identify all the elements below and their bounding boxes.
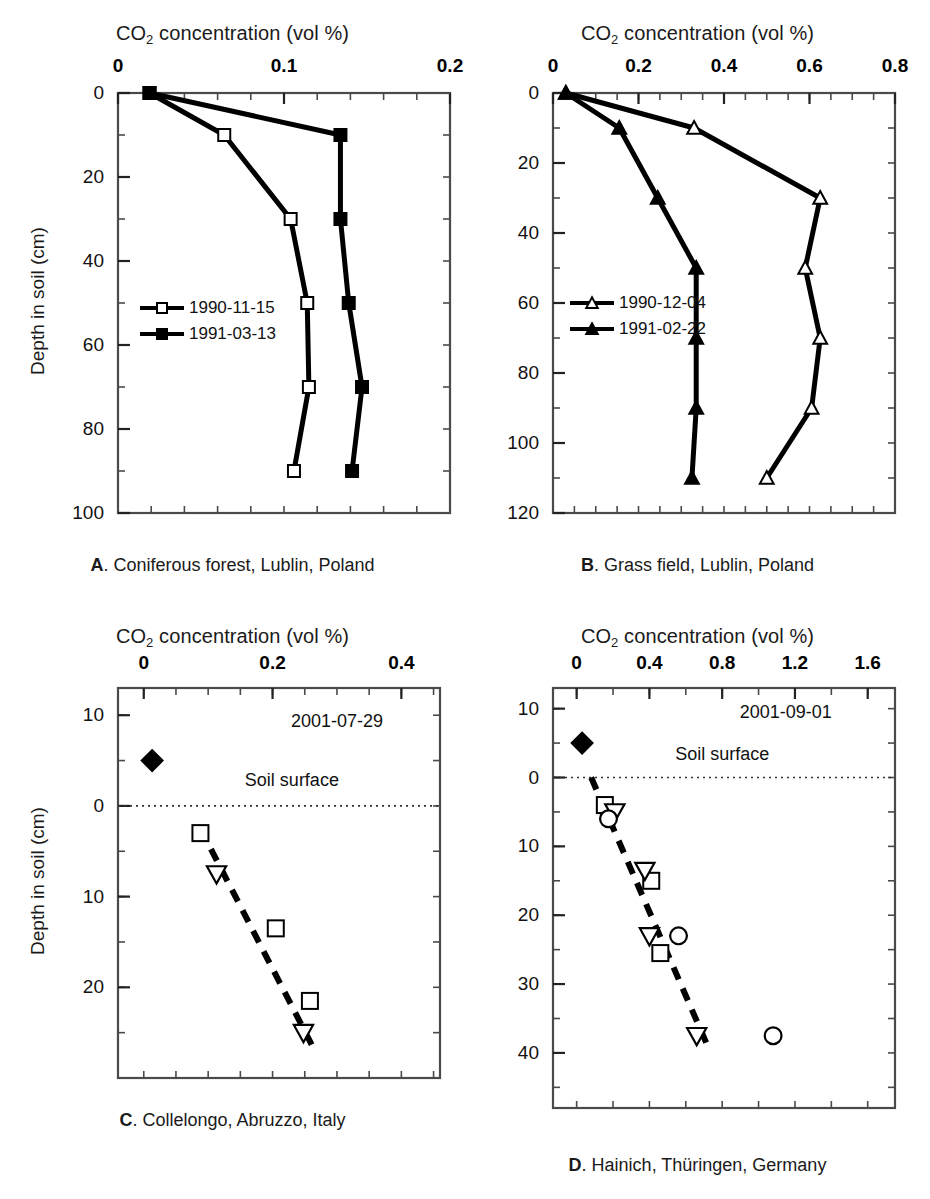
legend-symbol-open-square <box>140 301 184 315</box>
x-tick-label: 0.2 <box>437 55 463 77</box>
panel-c-caption: C. Collelongo, Abruzzo, Italy <box>0 1110 465 1131</box>
data-point-open-square <box>288 465 300 477</box>
x-tick-label: 1.2 <box>782 652 808 674</box>
data-point-open-square <box>302 993 318 1009</box>
y-tick-label: 30 <box>465 973 539 995</box>
x-tick-label: 0.8 <box>882 55 908 77</box>
legend-label: 1991-02-22 <box>619 319 706 339</box>
legend-item: 1990-11-15 <box>140 295 276 321</box>
data-point-filled-triangle <box>685 471 699 484</box>
y-tick-label: 20 <box>0 166 104 188</box>
panel-a-legend: 1990-11-151991-03-13 <box>140 295 276 347</box>
y-tick-label: 0 <box>0 795 104 817</box>
panel-d: CO2 concentration (vol %) 2001-09-01 Soi… <box>465 600 930 1199</box>
x-tick-label: 0.4 <box>711 55 737 77</box>
data-point-filled-square <box>334 213 346 225</box>
y-tick-label: 10 <box>0 886 104 908</box>
data-point-filled-square <box>157 329 167 339</box>
x-tick-label: 0.2 <box>625 55 651 77</box>
data-point-open-square <box>303 381 315 393</box>
x-tick-label: 0.4 <box>388 652 414 674</box>
legend-symbol-filled-triangle <box>570 322 614 336</box>
x-tick-label: 0.6 <box>796 55 822 77</box>
panel-d-date-annotation: 2001-09-01 <box>740 702 832 723</box>
panel-c-date-annotation: 2001-07-29 <box>291 711 383 732</box>
panel-b-legend: 1990-12-041991-02-22 <box>570 290 706 342</box>
x-tick-label: 0.4 <box>636 652 662 674</box>
y-tick-label: 0 <box>465 82 539 104</box>
y-tick-label: 120 <box>465 502 539 524</box>
y-tick-label: 80 <box>465 362 539 384</box>
x-tick-label: 0.2 <box>259 652 285 674</box>
data-point-open-triangle <box>586 297 598 308</box>
panel-a-ylabel: Depth in soil (cm) <box>27 201 49 401</box>
data-point-filled-triangle <box>586 323 598 334</box>
x-tick-label: 0.8 <box>709 652 735 674</box>
panel-c-plot <box>0 600 465 1160</box>
legend-symbol-open-triangle <box>570 296 614 310</box>
data-point-filled-square <box>343 297 355 309</box>
legend-label: 1990-12-04 <box>619 293 706 313</box>
x-tick-label: 0.1 <box>271 55 297 77</box>
data-point-open-square <box>301 297 313 309</box>
data-point-filled-square <box>334 129 346 141</box>
panel-a-caption: A. Coniferous forest, Lublin, Poland <box>0 555 465 576</box>
y-tick-label: 20 <box>465 904 539 926</box>
panel-c-axis-title: CO2 concentration (vol %) <box>0 625 465 648</box>
y-tick-label: 100 <box>0 502 104 524</box>
y-tick-label: 40 <box>0 250 104 272</box>
data-point-open-triangle <box>805 401 819 414</box>
y-tick-label: 0 <box>465 767 539 789</box>
panel-b-axis-title: CO2 concentration (vol %) <box>465 22 930 45</box>
data-point-open-square <box>268 920 284 936</box>
y-tick-label: 20 <box>465 152 539 174</box>
panel-c: CO2 concentration (vol %) Depth in soil … <box>0 600 465 1199</box>
legend-item: 1991-03-13 <box>140 321 276 347</box>
figure-root: CO2 concentration (vol %) Depth in soil … <box>0 0 930 1199</box>
legend-item: 1991-02-22 <box>570 316 706 342</box>
data-point-open-circle <box>765 1027 782 1044</box>
data-point-filled-square <box>144 87 156 99</box>
x-tick-label: 0 <box>113 55 124 77</box>
data-point-open-square <box>218 129 230 141</box>
legend-item: 1990-12-04 <box>570 290 706 316</box>
x-tick-label: 0 <box>548 55 559 77</box>
data-point-filled-square <box>356 381 368 393</box>
y-tick-label: 40 <box>465 222 539 244</box>
x-tick-label: 0 <box>571 652 582 674</box>
data-point-open-square <box>285 213 297 225</box>
panel-a-axis-title: CO2 concentration (vol %) <box>0 22 465 45</box>
data-point-open-circle <box>670 927 687 944</box>
data-point-filled-triangle <box>689 401 703 414</box>
data-point-open-triangle <box>798 261 812 274</box>
y-tick-label: 10 <box>465 698 539 720</box>
panel-c-soil-surface-label: Soil surface <box>245 770 339 791</box>
panel-a: CO2 concentration (vol %) Depth in soil … <box>0 0 465 600</box>
y-tick-label: 10 <box>465 835 539 857</box>
data-point-open-square <box>652 945 668 961</box>
panel-b: CO2 concentration (vol %) B. Grass field… <box>465 0 930 600</box>
data-point-open-circle <box>600 810 617 827</box>
y-tick-label: 80 <box>0 418 104 440</box>
legend-label: 1990-11-15 <box>189 298 275 318</box>
data-point-open-triangle <box>813 331 827 344</box>
panel-b-caption: B. Grass field, Lublin, Poland <box>465 555 930 576</box>
y-tick-label: 40 <box>465 1042 539 1064</box>
y-tick-label: 20 <box>0 976 104 998</box>
panel-d-axis-title: CO2 concentration (vol %) <box>465 625 930 648</box>
panel-d-caption: D. Hainich, Thüringen, Germany <box>465 1155 930 1176</box>
panel-d-plot <box>465 600 930 1160</box>
data-point-open-triangle-down <box>640 928 659 945</box>
y-tick-label: 10 <box>0 704 104 726</box>
y-tick-label: 60 <box>0 334 104 356</box>
x-tick-label: 1.6 <box>854 652 880 674</box>
legend-label: 1991-03-13 <box>189 324 276 344</box>
data-point-open-square <box>157 303 167 313</box>
y-tick-label: 60 <box>465 292 539 314</box>
y-tick-label: 100 <box>465 432 539 454</box>
data-point-filled-diamond <box>141 750 163 772</box>
x-tick-label: 0 <box>138 652 149 674</box>
data-point-filled-square <box>346 465 358 477</box>
panel-d-soil-surface-label: Soil surface <box>675 744 769 765</box>
data-point-open-square <box>192 825 208 841</box>
